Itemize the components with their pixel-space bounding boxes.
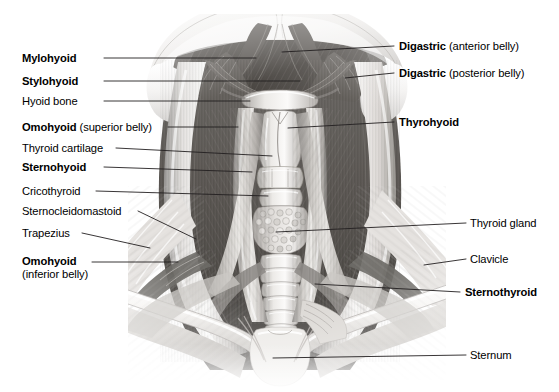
- label-thyroid-gland: Thyroid gland: [470, 217, 537, 230]
- label-hyoid-bone-plain: Hyoid bone: [22, 95, 78, 107]
- label-trapezius-plain: Trapezius: [22, 227, 70, 239]
- label-digastric-posterior: Digastric (posterior belly): [399, 67, 524, 80]
- label-stylohyoid-bold: Stylohyoid: [22, 75, 78, 87]
- label-stylohyoid: Stylohyoid: [22, 75, 78, 88]
- label-hyoid-bone: Hyoid bone: [22, 95, 78, 108]
- label-sternum: Sternum: [470, 349, 512, 362]
- label-sternum-plain: Sternum: [470, 349, 512, 361]
- neck-anatomy-illustration: [0, 0, 559, 392]
- label-sternothyroid: Sternothyroid: [465, 286, 537, 299]
- label-omohyoid-superior-plain: (superior belly): [77, 121, 152, 133]
- label-thyrohyoid-bold: Thyrohyoid: [399, 116, 459, 128]
- top-mask: [0, 0, 559, 14]
- label-digastric-anterior-plain: (anterior belly): [446, 40, 519, 52]
- label-clavicle-plain: Clavicle: [470, 253, 508, 265]
- label-omohyoid-inferior: Omohyoid(inferior belly): [22, 255, 88, 280]
- label-trapezius: Trapezius: [22, 227, 70, 240]
- right-gutter-mask: [446, 0, 559, 392]
- label-clavicle: Clavicle: [470, 253, 508, 266]
- label-cricothyroid-plain: Cricothyroid: [22, 185, 81, 197]
- label-sternothyroid-bold: Sternothyroid: [465, 286, 537, 298]
- label-mylohyoid-bold: Mylohyoid: [22, 52, 76, 64]
- label-omohyoid-inferior-sub: (inferior belly): [22, 268, 88, 281]
- label-sternocleidomastoid: Sternocleidomastoid: [22, 205, 121, 218]
- label-digastric-anterior: Digastric (anterior belly): [399, 40, 519, 53]
- label-omohyoid-superior: Omohyoid (superior belly): [22, 121, 152, 134]
- label-omohyoid-inferior-bold: Omohyoid: [22, 255, 77, 267]
- label-mylohyoid: Mylohyoid: [22, 52, 76, 65]
- label-thyroid-cartilage: Thyroid cartilage: [22, 142, 103, 155]
- label-digastric-anterior-bold: Digastric: [399, 40, 446, 52]
- label-digastric-posterior-bold: Digastric: [399, 67, 446, 79]
- label-sternohyoid-bold: Sternohyoid: [22, 161, 86, 173]
- label-cricothyroid: Cricothyroid: [22, 185, 81, 198]
- label-sternocleidomastoid-plain: Sternocleidomastoid: [22, 205, 121, 217]
- label-thyrohyoid: Thyrohyoid: [399, 116, 459, 129]
- label-sternohyoid: Sternohyoid: [22, 161, 86, 174]
- label-thyroid-cartilage-plain: Thyroid cartilage: [22, 142, 103, 154]
- label-omohyoid-superior-bold: Omohyoid: [22, 121, 77, 133]
- anatomy-figure: MylohyoidStylohyoidHyoid boneOmohyoid (s…: [0, 0, 559, 392]
- label-digastric-posterior-plain: (posterior belly): [446, 67, 524, 79]
- label-thyroid-gland-plain: Thyroid gland: [470, 217, 537, 229]
